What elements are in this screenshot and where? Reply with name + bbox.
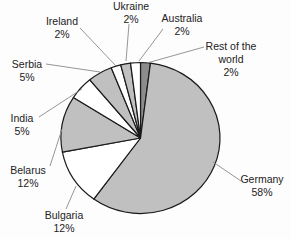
slice-label-line: 12% (45, 222, 84, 235)
pie-chart-svg (0, 0, 291, 239)
slice-label-rest-of-the-world: Rest of theworld2% (206, 40, 257, 79)
leader-line-ukraine (126, 24, 129, 61)
leader-line-bulgaria (66, 186, 76, 209)
slice-label-line: Serbia (12, 58, 42, 71)
slice-label-line: Ukraine (113, 0, 149, 13)
slice-label-line: Australia (162, 12, 203, 25)
leader-line-belarus (50, 129, 62, 166)
slice-label-bulgaria: Bulgaria12% (45, 209, 84, 235)
slice-label-australia: Australia2% (162, 12, 203, 38)
slice-label-line: 58% (240, 186, 283, 199)
slice-label-line: 5% (11, 125, 34, 138)
leader-line-germany (213, 162, 241, 181)
slice-label-line: Ireland (46, 15, 78, 28)
leader-line-australia (139, 29, 163, 61)
slice-label-line: Bulgaria (45, 209, 84, 222)
slice-label-line: Rest of the (206, 40, 257, 53)
slice-label-india: India5% (11, 112, 34, 138)
slice-label-ireland: Ireland2% (46, 15, 78, 41)
slice-label-belarus: Belarus12% (10, 164, 46, 190)
leader-line-serbia (46, 64, 100, 72)
leader-line-ireland (80, 28, 116, 66)
slice-label-line: 2% (113, 13, 149, 26)
leader-line-rest-of-the-world (147, 47, 204, 63)
slice-label-line: 12% (10, 177, 46, 190)
slice-label-line: India (11, 112, 34, 125)
slice-label-line: Germany (240, 173, 283, 186)
slice-label-line: 2% (206, 66, 257, 79)
slice-label-line: 2% (46, 28, 78, 41)
slice-label-line: world (206, 53, 257, 66)
slice-label-line: Belarus (10, 164, 46, 177)
slice-label-line: 2% (162, 25, 203, 38)
slice-label-line: 5% (12, 71, 42, 84)
slice-label-germany: Germany58% (240, 173, 283, 199)
pie-chart-figure: Rest of theworld2%Germany58%Bulgaria12%B… (0, 0, 291, 239)
slice-label-serbia: Serbia5% (12, 58, 42, 84)
slice-label-ukraine: Ukraine2% (113, 0, 149, 26)
